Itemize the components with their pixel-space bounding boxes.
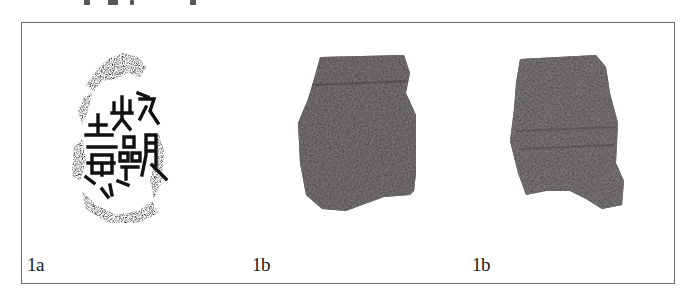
panel-1b-front-photo bbox=[292, 53, 422, 223]
object-back-image bbox=[506, 53, 636, 223]
panel-label-1b-front: 1b bbox=[252, 254, 270, 276]
panel-label-1b-back: 1b bbox=[472, 254, 490, 276]
object-front-image bbox=[292, 53, 422, 223]
panel-1b-back-photo bbox=[506, 53, 636, 223]
inscription-rubbing-image bbox=[68, 51, 183, 226]
panel-1a-rubbing bbox=[68, 51, 183, 226]
panel-label-1a: 1a bbox=[27, 254, 44, 276]
cropped-caption-fragment bbox=[70, 0, 210, 6]
figure-frame: 1a 1b 1b bbox=[21, 22, 675, 284]
